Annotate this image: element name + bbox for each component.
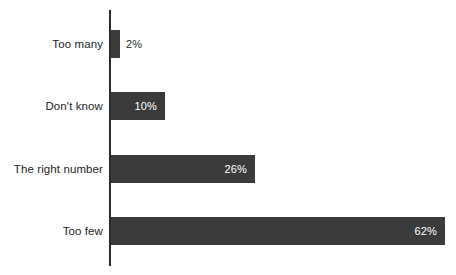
category-label-dont-know: Don't know	[0, 92, 103, 120]
bar-chart: Too many 2% Don't know 10% The right num…	[0, 0, 456, 275]
bar-row: Don't know 10%	[0, 92, 456, 120]
bar-row: Too few 62%	[0, 217, 456, 245]
category-label-too-few: Too few	[0, 217, 103, 245]
bar-row: Too many 2%	[0, 30, 456, 58]
bar-value-dont-know: 10%	[134, 92, 157, 120]
category-label-too-many: Too many	[0, 30, 103, 58]
bar-value-too-few: 62%	[414, 217, 437, 245]
bar-too-few[interactable]	[111, 217, 445, 245]
bar-row: The right number 26%	[0, 155, 456, 183]
category-label-the-right-number: The right number	[0, 155, 103, 183]
bar-too-many[interactable]	[111, 30, 120, 58]
bar-value-the-right-number: 26%	[224, 155, 247, 183]
bar-value-too-many: 2%	[126, 30, 142, 58]
